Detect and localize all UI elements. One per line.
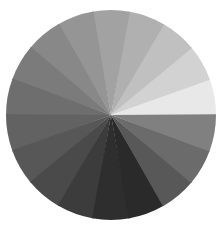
pie-chart-canvas bbox=[0, 0, 223, 231]
pie-chart-figure bbox=[0, 0, 223, 231]
pie-wedge-group bbox=[6, 10, 216, 220]
